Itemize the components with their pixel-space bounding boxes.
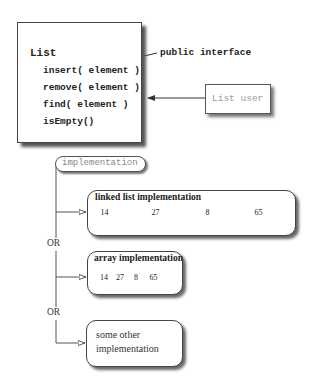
method-isempty: isEmpty() (43, 116, 94, 127)
diagram: List insert( element ) remove( element )… (0, 0, 315, 389)
or-label-1: OR (47, 238, 60, 248)
method-find: find( element ) (43, 99, 129, 110)
method-insert: insert( element ) (43, 65, 140, 76)
ll-node-value: 65 (251, 205, 266, 221)
ll-node-value: 27 (148, 205, 163, 221)
array-cell-value: 65 (144, 270, 163, 286)
ll-node-value: 8 (200, 205, 215, 221)
linked-list-title: linked list implementation (95, 192, 201, 202)
other-line-1: some other (96, 328, 176, 342)
ll-node-value: 14 (97, 205, 112, 221)
list-title: List (30, 47, 56, 59)
array-cell-value: 14 (96, 270, 112, 286)
method-remove: remove( element ) (43, 82, 140, 93)
or-label-2: OR (47, 307, 60, 317)
other-line-2: implementation (96, 342, 176, 356)
array-title: array implementation (94, 253, 183, 263)
implementation-label: implementation (62, 158, 138, 168)
array-cell-value: 8 (128, 270, 144, 286)
public-interface-label: public interface (160, 47, 251, 58)
other-implementation-text: some other implementation (96, 328, 176, 356)
array-cell-value: 27 (112, 270, 128, 286)
list-user-label: List user (212, 93, 263, 104)
